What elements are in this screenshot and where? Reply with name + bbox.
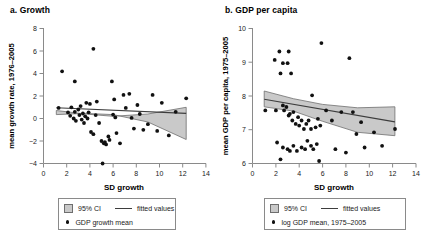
svg-text:10: 10 (238, 25, 246, 32)
svg-text:10: 10 (156, 170, 164, 177)
svg-text:7: 7 (242, 126, 246, 133)
svg-text:2: 2 (274, 170, 278, 177)
legend-fit-group-a: fitted values (101, 205, 174, 212)
svg-text:8: 8 (242, 93, 246, 100)
svg-text:8: 8 (33, 25, 37, 32)
legend-label-ci-a: 95% CI (78, 205, 101, 212)
legend-row-ci-a: 95% CI fitted values (64, 202, 169, 214)
svg-text:−2: −2 (29, 138, 37, 145)
legend-label-ci-b: 95% CI (284, 205, 307, 212)
svg-text:0: 0 (251, 170, 255, 177)
svg-text:8: 8 (134, 170, 138, 177)
point-marker-icon (66, 220, 69, 223)
fitted-line-swatch-icon (321, 208, 338, 209)
scatter-points-a (57, 47, 188, 166)
legend-label-points-b: log GDP mean, 1975–2005 (281, 219, 366, 226)
legend-a: 95% CI fitted values GDP growth mean (58, 198, 176, 230)
figure-container: a. Growth 8 6 4 2 0 −2 −4 (0, 0, 433, 240)
x-ticks-b (253, 164, 417, 168)
svg-text:6: 6 (242, 160, 246, 167)
y-ticks-a (40, 29, 44, 164)
svg-text:−4: −4 (29, 160, 37, 167)
legend-row-points-a: GDP growth mean (64, 216, 169, 228)
y-tick-labels-b: 10 9 8 7 6 (238, 25, 246, 167)
scatter-plot-growth: 8 6 4 2 0 −2 −4 0 2 (0, 0, 216, 195)
ci-swatch-icon (270, 204, 279, 213)
legend-row-points-b: log GDP mean, 1975–2005 (270, 216, 399, 228)
svg-text:2: 2 (33, 93, 37, 100)
fitted-line-swatch-icon (115, 208, 132, 209)
svg-text:4: 4 (297, 170, 301, 177)
svg-text:14: 14 (202, 170, 210, 177)
y-axis-title-a: mean growth rate, 1976–2005 (7, 42, 16, 148)
svg-text:4: 4 (88, 170, 92, 177)
svg-text:0: 0 (33, 115, 37, 122)
svg-text:14: 14 (412, 170, 420, 177)
svg-text:0: 0 (42, 170, 46, 177)
svg-text:4: 4 (33, 70, 37, 77)
legend-row-ci-b: 95% CI fitted values (270, 202, 399, 214)
svg-text:2: 2 (65, 170, 69, 177)
x-tick-labels-a: 0 2 4 6 8 10 12 14 (42, 170, 210, 177)
legend-b: 95% CI fitted values log GDP mean, 1975–… (264, 198, 406, 230)
svg-text:10: 10 (365, 170, 373, 177)
svg-text:12: 12 (389, 170, 397, 177)
legend-label-points-a: GDP growth mean (75, 219, 132, 226)
panel-gdp-per-capita: b. GDP per capita 10 9 8 7 6 (216, 0, 433, 240)
x-axis-title-b: SD growth (314, 183, 354, 192)
confidence-band-b (264, 91, 395, 136)
y-ticks-b (249, 29, 253, 164)
legend-label-fit-a: fitted values (137, 205, 174, 212)
legend-label-fit-b: fitted values (343, 205, 380, 212)
point-marker-icon (272, 220, 275, 223)
scatter-plot-gdp: 10 9 8 7 6 0 2 4 6 8 (216, 0, 433, 195)
legend-fit-group-b: fitted values (307, 205, 380, 212)
svg-text:6: 6 (111, 170, 115, 177)
svg-text:6: 6 (33, 48, 37, 55)
x-ticks-a (44, 164, 206, 168)
ci-swatch-icon (64, 204, 73, 213)
y-tick-labels-a: 8 6 4 2 0 −2 −4 (29, 25, 37, 167)
y-axis-title-b: mean GDP per capita, 1975–2005 (221, 36, 230, 155)
svg-text:12: 12 (179, 170, 187, 177)
svg-text:6: 6 (321, 170, 325, 177)
x-tick-labels-b: 0 2 4 6 8 10 12 14 (251, 170, 420, 177)
svg-text:9: 9 (242, 59, 246, 66)
panel-growth: a. Growth 8 6 4 2 0 −2 −4 (0, 0, 216, 240)
x-axis-title-a: SD growth (104, 183, 144, 192)
svg-text:8: 8 (344, 170, 348, 177)
